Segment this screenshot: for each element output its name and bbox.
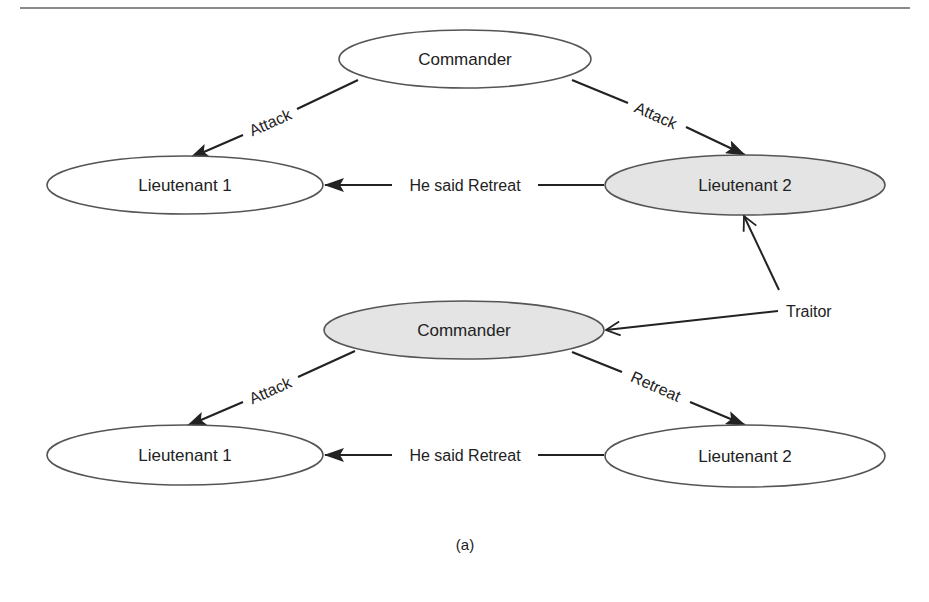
- edge-bottom-lt2-to-lt1: He said Retreat: [325, 447, 604, 464]
- edge-bottom-commander-to-lt2: Retreat: [572, 352, 745, 425]
- node-top-commander: Commander: [339, 30, 591, 88]
- edge-label-attack: Attack: [246, 373, 294, 407]
- edge-label-he-said-retreat: He said Retreat: [409, 447, 521, 464]
- node-bottom-lieutenant-2: Lieutenant 2: [605, 425, 885, 487]
- node-top-lieutenant-2-traitor: Lieutenant 2: [605, 155, 885, 215]
- node-bottom-lieutenant-1: Lieutenant 1: [47, 425, 323, 485]
- edge-label-attack: Attack: [246, 105, 294, 139]
- node-label: Lieutenant 2: [698, 176, 792, 195]
- edge-top-lt2-to-lt1: He said Retreat: [325, 177, 604, 194]
- scenario-bottom: Attack Retreat He said Retreat Commander…: [47, 301, 885, 487]
- node-top-lieutenant-1: Lieutenant 1: [47, 156, 323, 214]
- node-label: Lieutenant 1: [138, 176, 232, 195]
- figure-caption: (a): [456, 536, 474, 553]
- node-label: Lieutenant 2: [698, 447, 792, 466]
- node-label: Commander: [417, 321, 511, 340]
- node-bottom-commander-traitor: Commander: [324, 301, 604, 359]
- byzantine-generals-diagram: Attack Attack He said Retreat Commander …: [0, 0, 929, 602]
- traitor-label: Traitor: [786, 303, 832, 320]
- node-label: Commander: [418, 50, 512, 69]
- traitor-annotation: Traitor: [606, 216, 832, 330]
- edge-top-commander-to-lt2: Attack: [572, 80, 745, 155]
- scenario-top: Attack Attack He said Retreat Commander …: [47, 30, 885, 215]
- edge-top-commander-to-lt1: Attack: [190, 80, 358, 158]
- edge-label-attack: Attack: [632, 99, 680, 133]
- edge-label-retreat: Retreat: [628, 368, 683, 405]
- node-label: Lieutenant 1: [138, 446, 232, 465]
- edge-label-he-said-retreat: He said Retreat: [409, 177, 521, 194]
- edge-bottom-commander-to-lt1: Attack: [187, 351, 355, 426]
